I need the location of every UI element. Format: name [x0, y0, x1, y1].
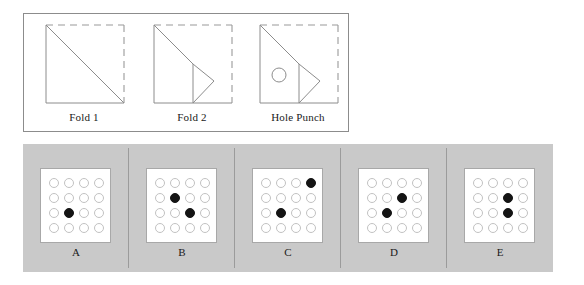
- hole-empty: [291, 193, 301, 203]
- hole-pattern-card: [146, 168, 217, 243]
- hole-empty: [473, 193, 483, 203]
- hole-empty: [291, 208, 301, 218]
- hole-empty: [367, 208, 377, 218]
- hole-empty: [79, 178, 89, 188]
- hole-empty: [79, 208, 89, 218]
- hole-empty: [49, 193, 59, 203]
- hole-empty: [397, 208, 407, 218]
- hole-filled: [382, 208, 392, 218]
- hole-empty: [155, 223, 165, 233]
- hole-empty: [94, 208, 104, 218]
- hole-grid: [152, 176, 212, 237]
- hole-pattern-card: [358, 168, 429, 243]
- hole-empty: [155, 208, 165, 218]
- hole-empty: [291, 223, 301, 233]
- fold-2-diagram: [152, 23, 234, 105]
- fold-step-fold-2: Fold 2: [142, 23, 242, 127]
- hole-empty: [79, 193, 89, 203]
- hole-filled: [397, 193, 407, 203]
- hole-empty: [412, 223, 422, 233]
- hole-empty: [397, 178, 407, 188]
- hole-empty: [382, 223, 392, 233]
- hole-empty: [185, 223, 195, 233]
- hole-empty: [200, 223, 210, 233]
- hole-empty: [64, 223, 74, 233]
- option-label: D: [341, 245, 447, 259]
- hole-empty: [397, 223, 407, 233]
- hole-empty: [261, 178, 271, 188]
- answer-option-a[interactable]: A: [23, 144, 129, 272]
- hole-empty: [170, 178, 180, 188]
- fold-step-caption: Hole Punch: [248, 111, 348, 124]
- option-label: A: [23, 245, 129, 259]
- hole-empty: [261, 223, 271, 233]
- hole-empty: [170, 208, 180, 218]
- hole-filled: [503, 193, 513, 203]
- hole-grid: [364, 176, 424, 237]
- hole-empty: [412, 193, 422, 203]
- hole-empty: [488, 223, 498, 233]
- fold-step-hole-punch: Hole Punch: [248, 23, 348, 127]
- hole-empty: [412, 208, 422, 218]
- hole-empty: [473, 208, 483, 218]
- hole-filled: [306, 178, 316, 188]
- hole-empty: [94, 193, 104, 203]
- hole-empty: [94, 223, 104, 233]
- hole-empty: [488, 193, 498, 203]
- hole-empty: [200, 193, 210, 203]
- hole-grid: [258, 176, 318, 237]
- hole-pattern-card: [40, 168, 111, 243]
- fold-step-fold-1: Fold 1: [34, 23, 134, 127]
- option-label: C: [235, 245, 341, 259]
- hole-empty: [94, 178, 104, 188]
- hole-pattern-card: [464, 168, 535, 243]
- hole-empty: [488, 208, 498, 218]
- answer-option-c[interactable]: C: [235, 144, 341, 272]
- hole-empty: [367, 178, 377, 188]
- hole-empty: [49, 223, 59, 233]
- hole-empty: [306, 208, 316, 218]
- hole-empty: [367, 223, 377, 233]
- hole-empty: [49, 208, 59, 218]
- hole-empty: [306, 223, 316, 233]
- hole-empty: [200, 178, 210, 188]
- fold-step-caption: Fold 2: [142, 111, 242, 124]
- hole-empty: [518, 193, 528, 203]
- hole-empty: [503, 223, 513, 233]
- hole-empty: [261, 193, 271, 203]
- hole-empty: [261, 208, 271, 218]
- hole-filled: [185, 208, 195, 218]
- answer-options-panel: A B C D E: [23, 144, 553, 272]
- hole-empty: [382, 193, 392, 203]
- hole-empty: [79, 223, 89, 233]
- hole-empty: [64, 178, 74, 188]
- hole-empty: [170, 223, 180, 233]
- hole-empty: [276, 193, 286, 203]
- answer-option-b[interactable]: B: [129, 144, 235, 272]
- hole-empty: [306, 193, 316, 203]
- hole-empty: [185, 193, 195, 203]
- fold-step-caption: Fold 1: [34, 111, 134, 124]
- hole-empty: [412, 178, 422, 188]
- hole-filled: [64, 208, 74, 218]
- hole-empty: [518, 178, 528, 188]
- hole-empty: [382, 178, 392, 188]
- hole-empty: [155, 178, 165, 188]
- hole-empty: [200, 208, 210, 218]
- hole-empty: [291, 178, 301, 188]
- fold-1-diagram: [44, 23, 126, 105]
- option-label: B: [129, 245, 235, 259]
- hole-empty: [276, 223, 286, 233]
- hole-pattern-card: [252, 168, 323, 243]
- hole-grid: [470, 176, 530, 237]
- hole-punch-diagram: [258, 23, 340, 105]
- hole-empty: [367, 193, 377, 203]
- hole-empty: [488, 178, 498, 188]
- hole-empty: [518, 208, 528, 218]
- fold-sequence-panel: Fold 1 Fold 2: [23, 13, 349, 132]
- hole-empty: [185, 178, 195, 188]
- hole-empty: [49, 178, 59, 188]
- hole-empty: [155, 193, 165, 203]
- answer-option-e[interactable]: E: [447, 144, 553, 272]
- answer-option-d[interactable]: D: [341, 144, 447, 272]
